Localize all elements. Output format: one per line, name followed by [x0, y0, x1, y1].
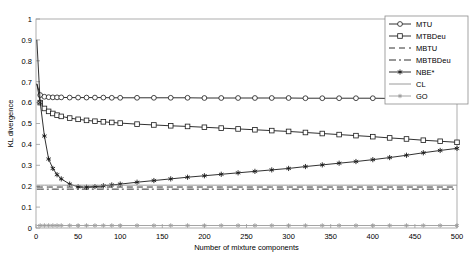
legend-label: MTU: [416, 20, 432, 29]
data-marker: [387, 136, 392, 141]
y-tick-label: 0.9: [22, 36, 32, 45]
data-marker: [202, 96, 207, 101]
data-marker: [67, 95, 72, 100]
data-marker: [185, 95, 190, 100]
data-marker: [202, 125, 207, 130]
legend-label: MTBDeu: [416, 32, 446, 41]
x-tick-label: 150: [156, 232, 169, 241]
data-marker: [371, 134, 376, 139]
data-marker: [42, 133, 47, 138]
data-marker: [286, 96, 291, 101]
data-marker: [135, 95, 140, 100]
kl-divergence-line-chart: 00.10.20.30.40.50.60.70.80.9105010015020…: [0, 0, 476, 264]
chart-figure: 00.10.20.30.40.50.60.70.80.9105010015020…: [0, 0, 476, 264]
data-marker: [404, 137, 409, 142]
x-tick-label: 350: [324, 232, 337, 241]
data-marker: [46, 156, 51, 161]
x-tick-label: 50: [74, 232, 82, 241]
y-tick-label: 0.2: [22, 182, 32, 191]
y-tick-label: 0.8: [22, 57, 32, 66]
data-marker: [253, 96, 258, 101]
data-marker: [455, 140, 460, 145]
x-tick-label: 100: [114, 232, 127, 241]
data-marker: [59, 95, 64, 100]
data-marker: [421, 138, 426, 143]
legend-label: MBTU: [416, 44, 437, 53]
legend-label: CL: [416, 80, 426, 89]
y-tick-label: 0.3: [22, 161, 32, 170]
x-tick-label: 300: [282, 232, 295, 241]
data-marker: [398, 22, 403, 27]
data-marker: [354, 133, 359, 138]
data-marker: [168, 95, 173, 100]
y-tick-label: 0: [28, 224, 32, 233]
data-marker: [84, 118, 89, 123]
data-marker: [109, 120, 114, 125]
data-marker: [93, 95, 98, 100]
data-marker: [93, 119, 98, 124]
data-marker: [152, 123, 157, 128]
data-marker: [398, 34, 403, 39]
data-marker: [320, 96, 325, 101]
y-tick-label: 0.1: [22, 203, 32, 212]
x-tick-label: 200: [198, 232, 211, 241]
data-marker: [219, 126, 224, 131]
data-marker: [354, 96, 359, 101]
series-go: [37, 223, 459, 227]
y-tick-label: 0.7: [22, 78, 32, 87]
y-tick-label: 0.4: [22, 140, 32, 149]
data-marker: [370, 96, 375, 101]
x-tick-label: 400: [367, 232, 380, 241]
data-marker: [135, 122, 140, 127]
data-marker: [337, 96, 342, 101]
data-marker: [84, 95, 89, 100]
data-marker: [286, 129, 291, 134]
legend-label: NBE*: [416, 68, 434, 77]
data-marker: [76, 95, 81, 100]
data-marker: [269, 96, 274, 101]
data-marker: [236, 96, 241, 101]
x-tick-label: 500: [451, 232, 464, 241]
x-tick-label: 450: [409, 232, 422, 241]
data-marker: [59, 114, 64, 119]
data-marker: [168, 123, 173, 128]
data-marker: [303, 130, 308, 135]
data-marker: [101, 120, 106, 125]
x-tick-label: 250: [240, 232, 253, 241]
data-marker: [118, 95, 123, 100]
data-marker: [76, 117, 81, 122]
data-marker: [236, 127, 241, 132]
data-marker: [109, 95, 114, 100]
y-tick-label: 0.6: [22, 98, 32, 107]
x-tick-label: 0: [34, 232, 38, 241]
legend-label: MBTBDeu: [416, 56, 451, 65]
data-marker: [438, 139, 443, 144]
data-marker: [185, 124, 190, 129]
data-marker: [253, 127, 258, 132]
y-tick-label: 0.5: [22, 119, 32, 128]
data-marker: [118, 121, 123, 126]
data-marker: [151, 95, 156, 100]
data-marker: [101, 95, 106, 100]
y-axis-title: KL divergence: [6, 100, 15, 148]
data-marker: [219, 96, 224, 101]
data-marker: [320, 131, 325, 136]
y-tick-label: 1: [28, 15, 32, 24]
data-marker: [67, 116, 72, 121]
data-marker: [337, 132, 342, 137]
x-axis-title: Number of mixture components: [194, 243, 299, 252]
data-marker: [67, 182, 72, 187]
data-marker: [303, 96, 308, 101]
legend-label: GO: [416, 92, 428, 101]
data-marker: [269, 128, 274, 133]
